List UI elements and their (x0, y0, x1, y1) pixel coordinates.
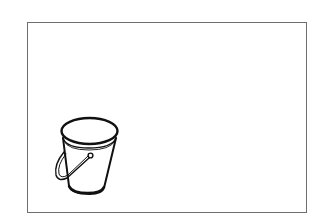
bucket-body (63, 138, 116, 194)
bucket-handle (56, 152, 89, 179)
bucket-rim (62, 118, 118, 144)
handle-rivet (88, 153, 93, 158)
bucket-drawing (0, 0, 322, 223)
bucket-icon (56, 118, 118, 194)
